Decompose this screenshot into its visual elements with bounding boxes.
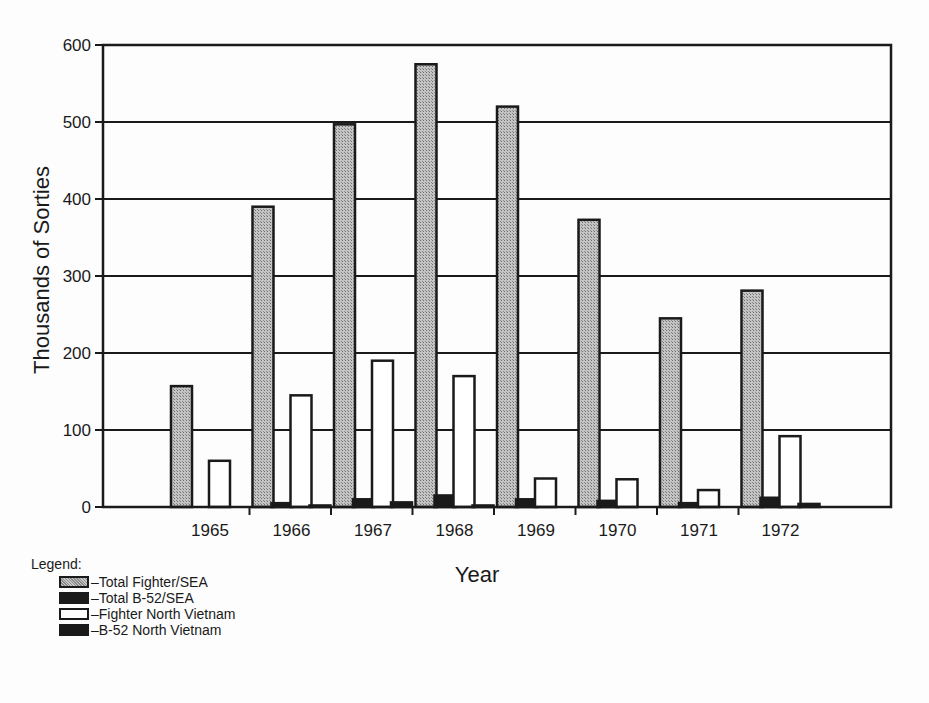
y-tick-label: 400 — [63, 190, 91, 209]
legend-label: –Fighter North Vietnam — [91, 606, 235, 622]
bar-total-fighter-sea — [660, 318, 681, 507]
bar-total-fighter-sea — [742, 291, 763, 507]
bar-fighter-north-vietnam — [209, 461, 230, 507]
legend-label: –B-52 North Vietnam — [91, 622, 221, 638]
legend-item-total-fighter-sea: –Total Fighter/SEA — [59, 574, 235, 590]
legend-item-b52-north-vietnam: –B-52 North Vietnam — [59, 622, 235, 638]
x-tick-label: 1972 — [762, 521, 800, 540]
bars — [171, 64, 820, 507]
x-tick-label: 1971 — [680, 521, 718, 540]
bar-fighter-north-vietnam — [617, 479, 638, 507]
y-tick-label: 600 — [63, 36, 91, 55]
x-tick-label: 1970 — [599, 521, 637, 540]
black-swatch-icon — [59, 624, 89, 636]
legend-item-fighter-north-vietnam: –Fighter North Vietnam — [59, 606, 235, 622]
bar-fighter-north-vietnam — [780, 436, 801, 507]
bar-total-fighter-sea — [334, 124, 355, 507]
legend: Legend: –Total Fighter/SEA –Total B-52/S… — [31, 556, 235, 638]
hatched-swatch-icon — [59, 576, 89, 588]
bar-total-fighter-sea — [171, 386, 192, 507]
black-swatch-icon — [59, 592, 89, 604]
bar-total-fighter-sea — [416, 64, 437, 507]
y-tick-label: 300 — [63, 267, 91, 286]
y-tick-label: 0 — [82, 498, 91, 517]
x-tick-label: 1968 — [436, 521, 474, 540]
y-tick-label: 200 — [63, 344, 91, 363]
bar-fighter-north-vietnam — [535, 479, 556, 507]
y-axis-title: Thousands of Sorties — [29, 166, 54, 374]
x-tick-label: 1965 — [191, 521, 229, 540]
x-tick-label: 1969 — [517, 521, 555, 540]
white-swatch-icon — [59, 608, 89, 620]
legend-item-total-b52-sea: –Total B-52/SEA — [59, 590, 235, 606]
legend-label: –Total Fighter/SEA — [91, 574, 208, 590]
bar-total-fighter-sea — [253, 207, 274, 507]
bar-fighter-north-vietnam — [372, 361, 393, 507]
bar-fighter-north-vietnam — [454, 376, 475, 507]
bar-fighter-north-vietnam — [291, 395, 312, 507]
bar-total-fighter-sea — [579, 220, 600, 507]
x-axis-ticks: 19651966196719681969197019711972 — [191, 507, 799, 540]
y-tick-label: 500 — [63, 113, 91, 132]
legend-label: –Total B-52/SEA — [91, 590, 194, 606]
y-axis-ticks: 0100200300400500600 — [63, 36, 103, 517]
x-axis-title: Year — [455, 562, 499, 587]
bar-total-fighter-sea — [497, 107, 518, 507]
x-tick-label: 1966 — [273, 521, 311, 540]
bar-fighter-north-vietnam — [698, 490, 719, 507]
x-tick-label: 1967 — [354, 521, 392, 540]
y-tick-label: 100 — [63, 421, 91, 440]
legend-title: Legend: — [31, 556, 235, 572]
